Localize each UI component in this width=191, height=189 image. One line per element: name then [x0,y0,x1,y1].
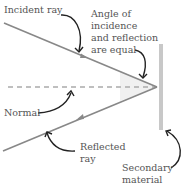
secondary-material-label-line-2: material [122,174,162,185]
angle-shading [120,71,157,101]
reflected-arrowhead-icon [76,114,84,120]
reflected-ray-label-line-2: ray [80,153,96,164]
reflected-ray-label-line-1: Reflected [80,141,126,152]
angle-label-line-2: incidence [91,20,137,31]
angle-label-line-1: Angle of [91,8,131,19]
incident-callout-arrow-icon [61,15,80,51]
normal-callout-arrow-icon [38,93,71,113]
secondary-material-label-line-1: Secondary [122,162,173,173]
angle-label-line-4: are equal [91,44,136,55]
reflection-diagram: Incident ray Angle of incidence and refl… [0,0,191,189]
incident-arrowhead-icon [80,54,88,59]
incident-ray-label: Incident ray [4,4,62,15]
normal-label: Normal [4,107,40,118]
angle-callout-arrow-icon [135,50,145,77]
reflected-callout-arrow-icon [47,133,75,151]
angle-label-line-3: and reflection [91,32,158,43]
secondary-material-surface [159,44,163,130]
